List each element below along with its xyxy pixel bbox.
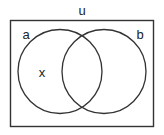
set-a-label: a — [22, 27, 30, 42]
venn-diagram: u a b x — [0, 0, 164, 135]
element-x-label: x — [39, 65, 46, 80]
universe-label: u — [78, 3, 85, 18]
set-b-circle — [62, 30, 146, 114]
set-a-circle — [18, 30, 102, 114]
set-b-label: b — [136, 27, 143, 42]
